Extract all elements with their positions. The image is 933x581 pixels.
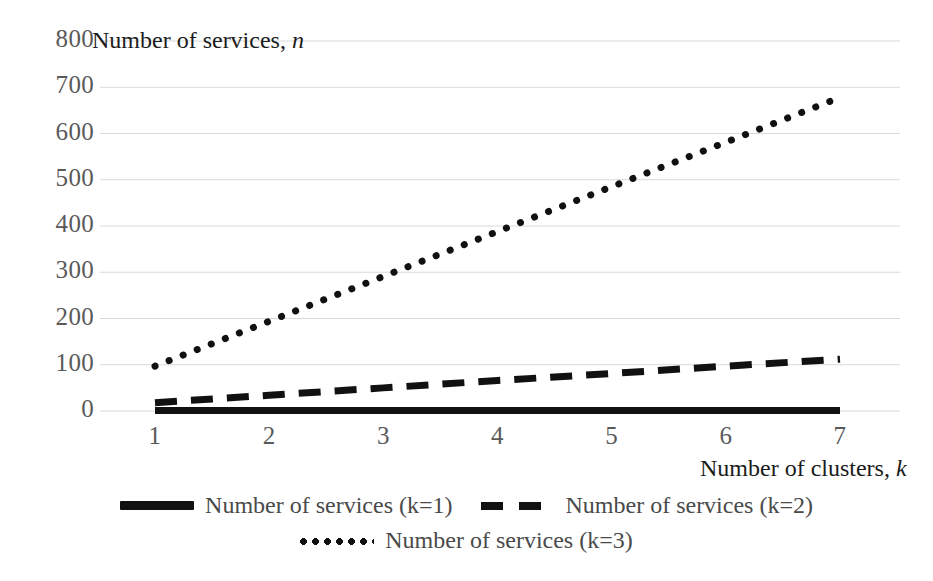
- y-axis-tick-label: 200: [22, 303, 94, 331]
- y-axis-title-text: Number of services,: [92, 27, 292, 53]
- series-lines: [155, 97, 840, 410]
- x-axis-tick-label: 4: [478, 422, 518, 450]
- x-axis-tick-label: 3: [363, 422, 403, 450]
- legend-item[interactable]: Number of services (k=1): [120, 492, 452, 519]
- legend-item[interactable]: Number of services (k=2): [481, 492, 813, 519]
- x-axis-tick-label: 5: [592, 422, 632, 450]
- series-line-3: [155, 97, 840, 366]
- gridlines: [100, 41, 900, 411]
- legend-row: Number of services (k=3): [0, 527, 933, 554]
- y-axis-tick-label: 800: [22, 25, 94, 53]
- y-axis-tick-label: 100: [22, 349, 94, 377]
- legend-marker-dashed-icon: [481, 502, 555, 510]
- legend-marker-solid-icon: [120, 501, 194, 510]
- y-axis-title-variable: n: [292, 27, 304, 53]
- legend-marker-dotted-icon: [300, 537, 374, 545]
- legend-label: Number of services (k=1): [205, 492, 452, 519]
- x-axis-title-text: Number of clusters,: [700, 455, 896, 481]
- x-axis-tick-label: 2: [249, 422, 289, 450]
- y-axis-title: Number of services, n: [92, 27, 304, 54]
- y-axis-tick-label: 600: [22, 118, 94, 146]
- legend-item[interactable]: Number of services (k=3): [300, 527, 632, 554]
- y-axis-tick-label: 400: [22, 210, 94, 238]
- line-chart: 0100200300400500600700800 1234567 Number…: [0, 0, 933, 581]
- y-axis-tick-label: 700: [22, 71, 94, 99]
- y-axis-tick-label: 500: [22, 164, 94, 192]
- x-axis-tick-label: 6: [706, 422, 746, 450]
- x-axis-title: Number of clusters, k: [700, 455, 907, 482]
- series-line-2: [155, 359, 840, 402]
- y-axis-tick-label: 300: [22, 256, 94, 284]
- legend-label: Number of services (k=3): [385, 527, 632, 554]
- x-axis-tick-label: 7: [820, 422, 860, 450]
- legend-row: Number of services (k=1)Number of servic…: [0, 492, 933, 519]
- legend-label: Number of services (k=2): [566, 492, 813, 519]
- x-axis-title-variable: k: [896, 455, 907, 481]
- y-axis-tick-label: 0: [22, 395, 94, 423]
- x-axis-tick-label: 1: [135, 422, 175, 450]
